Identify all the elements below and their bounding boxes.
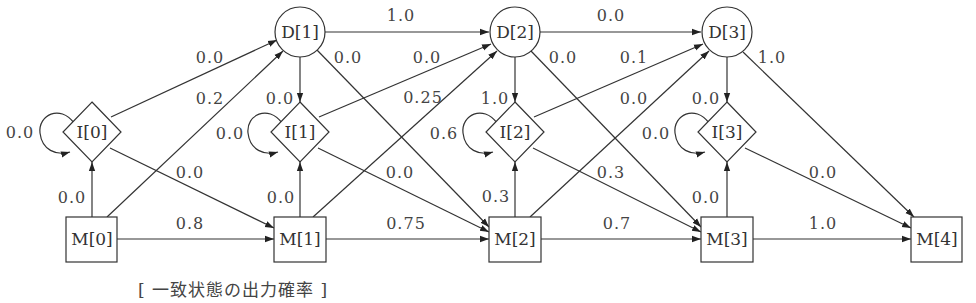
caption: [ 一致状態の出力確率 ] xyxy=(138,276,328,301)
label-I0: I[0] xyxy=(77,122,108,142)
label-M4: M[4] xyxy=(916,229,958,249)
elabel-D2-D3: 0.0 xyxy=(597,6,625,25)
label-D1: D[1] xyxy=(281,22,319,42)
label-I2: I[2] xyxy=(500,122,531,142)
label-I1: I[1] xyxy=(285,122,316,142)
elabel-I3-M4: 0.0 xyxy=(809,163,837,182)
edge-D3-M4 xyxy=(743,52,914,217)
edge-D1-M2 xyxy=(317,50,489,227)
elabel-D3-I3: 0.0 xyxy=(692,89,720,108)
elabel-D1-M2: 0.0 xyxy=(334,48,362,67)
elabel-M2-I2: 0.3 xyxy=(482,187,510,206)
elabel-D3-M4: 1.0 xyxy=(758,48,786,67)
elabel-I0-M1: 0.0 xyxy=(176,163,204,182)
elabel-M3-M4: 1.0 xyxy=(809,214,837,233)
elabel-M1-M2: 0.75 xyxy=(386,214,426,233)
elabel-I1-M2: 0.0 xyxy=(386,163,414,182)
edge-M0-D1 xyxy=(107,51,283,217)
elabel-I3-I3: 0.0 xyxy=(642,124,670,143)
elabel-D2-M3: 0.0 xyxy=(549,48,577,67)
elabel-I0-I0: 0.0 xyxy=(6,123,34,142)
hmm-diagram: D[1] D[2] D[3] I[0] I[1] I[2] I[3] M[0] … xyxy=(0,0,976,303)
elabel-I2-D3: 0.1 xyxy=(620,48,648,67)
label-M3: M[3] xyxy=(706,229,748,249)
elabel-M2-M3: 0.7 xyxy=(603,214,631,233)
elabel-M0-M1: 0.8 xyxy=(176,214,204,233)
elabel-M3-I3: 0.0 xyxy=(692,188,720,207)
elabel-I2-M3: 0.3 xyxy=(597,163,625,182)
elabel-I2-I2: 0.6 xyxy=(430,124,458,143)
edge-I0-D1 xyxy=(111,40,277,117)
elabel-M1-D2: 0.25 xyxy=(403,88,443,107)
label-M0: M[0] xyxy=(71,229,113,249)
elabel-D1-I1: 0.0 xyxy=(266,89,294,108)
elabel-I1-I1: 0.0 xyxy=(216,124,244,143)
label-I3: I[3] xyxy=(712,122,743,142)
elabel-M0-I0: 0.0 xyxy=(58,188,86,207)
edge-D2-M3 xyxy=(531,51,701,227)
elabel-D1-D2: 1.0 xyxy=(387,6,415,25)
elabel-I0-D1: 0.0 xyxy=(196,48,224,67)
elabel-M2-D3: 0.0 xyxy=(620,89,648,108)
label-M1: M[1] xyxy=(279,229,321,249)
label-M2: M[2] xyxy=(494,229,536,249)
label-D2: D[2] xyxy=(496,22,534,42)
edge-M1-D2 xyxy=(313,51,497,217)
label-D3: D[3] xyxy=(708,22,746,42)
elabel-D2-I2: 1.0 xyxy=(481,89,509,108)
elabel-M1-I1: 0.0 xyxy=(267,188,295,207)
edge-M2-D3 xyxy=(530,51,709,217)
elabel-M0-D1: 0.2 xyxy=(196,89,224,108)
elabel-I1-D2: 0.0 xyxy=(413,48,441,67)
